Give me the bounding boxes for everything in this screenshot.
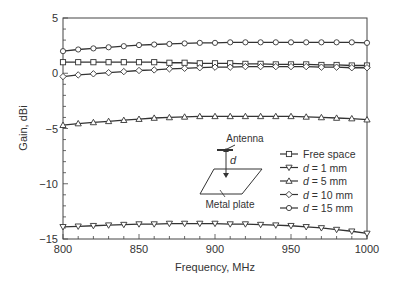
circle-marker-icon — [273, 40, 278, 45]
arrow-down-icon — [223, 173, 229, 178]
circle-marker-icon — [228, 40, 233, 45]
circle-marker-icon — [349, 40, 354, 45]
y-tick-label: −10 — [39, 178, 58, 190]
square-marker-icon — [136, 60, 141, 65]
square-marker-icon — [121, 60, 126, 65]
diamond-marker-icon — [60, 73, 66, 79]
circle-marker-icon — [121, 44, 126, 49]
square-marker-icon — [60, 60, 65, 65]
diamond-marker-icon — [166, 66, 172, 72]
diamond-marker-icon — [136, 67, 142, 73]
square-marker-icon — [286, 151, 291, 156]
diamond-marker-icon — [151, 67, 157, 73]
legend-item: Free space — [280, 148, 356, 160]
metal-plate-icon — [200, 169, 262, 194]
series-d-15-mm — [60, 40, 369, 54]
legend-label: d = 15 mm — [303, 202, 353, 214]
x-tick-label: 900 — [206, 243, 224, 255]
antenna-label: Antenna — [226, 133, 264, 144]
circle-marker-icon — [286, 205, 291, 210]
x-tick-label: 950 — [282, 243, 300, 255]
diamond-marker-icon — [286, 191, 292, 197]
y-tick-label: 5 — [52, 12, 58, 24]
diamond-marker-icon — [121, 68, 127, 74]
legend-item: d = 15 mm — [280, 202, 353, 214]
circle-marker-icon — [76, 47, 81, 52]
circle-marker-icon — [212, 40, 217, 45]
circle-marker-icon — [288, 40, 293, 45]
series-d-10-mm — [60, 63, 370, 79]
y-tick-label: 0 — [52, 67, 58, 79]
circle-marker-icon — [182, 41, 187, 46]
x-tick-label: 850 — [130, 243, 148, 255]
legend: Free spaced = 1 mmd = 5 mmd = 10 mmd = 1… — [280, 148, 356, 214]
inset-diagram: Antenna d Metal plate — [200, 133, 264, 210]
circle-marker-icon — [243, 40, 248, 45]
gain-chart: 8008509009501000−15−10−505 Frequency, MH… — [0, 0, 394, 286]
diamond-marker-icon — [75, 72, 81, 78]
circle-marker-icon — [197, 40, 202, 45]
legend-label: d = 1 mm — [303, 162, 347, 174]
distance-label: d — [230, 154, 237, 166]
circle-marker-icon — [304, 40, 309, 45]
triangle-down-marker-icon — [364, 231, 370, 236]
circle-marker-icon — [91, 46, 96, 51]
diamond-marker-icon — [105, 69, 111, 75]
legend-item: d = 5 mm — [280, 175, 347, 187]
legend-label: d = 5 mm — [303, 175, 347, 187]
y-tick-label: −5 — [45, 123, 58, 135]
y-axis-label: Gain, dBi — [17, 105, 29, 150]
legend-label: d = 10 mm — [303, 189, 353, 201]
circle-marker-icon — [334, 40, 339, 45]
circle-marker-icon — [258, 40, 263, 45]
legend-item: d = 10 mm — [280, 189, 353, 201]
legend-item: d = 1 mm — [280, 162, 347, 174]
circle-marker-icon — [136, 42, 141, 47]
circle-marker-icon — [60, 49, 65, 54]
x-tick-label: 1000 — [355, 243, 379, 255]
square-marker-icon — [106, 60, 111, 65]
circle-marker-icon — [364, 40, 369, 45]
square-marker-icon — [152, 60, 157, 65]
circle-marker-icon — [319, 40, 324, 45]
circle-marker-icon — [152, 42, 157, 47]
square-marker-icon — [167, 60, 172, 65]
series-d-5-mm — [60, 113, 370, 127]
y-tick-label: −15 — [39, 233, 58, 245]
square-marker-icon — [76, 60, 81, 65]
legend-label: Free space — [303, 148, 356, 160]
x-axis-label: Frequency, MHz — [175, 261, 255, 273]
metal-plate-label: Metal plate — [206, 199, 255, 210]
diamond-marker-icon — [90, 71, 96, 77]
circle-marker-icon — [167, 41, 172, 46]
square-marker-icon — [91, 60, 96, 65]
circle-marker-icon — [106, 45, 111, 50]
diamond-marker-icon — [181, 65, 187, 71]
